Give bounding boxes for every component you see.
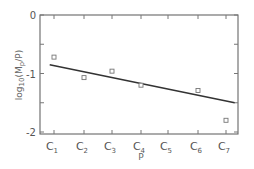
plot-frame — [40, 15, 238, 134]
x-tick-label: C5 — [160, 140, 172, 155]
x-tick-label: C6 — [190, 140, 203, 155]
x-tick-label: C3 — [104, 140, 116, 155]
x-tick-label: C1 — [46, 140, 58, 155]
axis-ticks — [40, 15, 238, 134]
data-point-marker — [224, 118, 228, 122]
chart: 0-1-2 C1C2C3C4C5C6C7 P log10(Mp/P) — [0, 0, 254, 169]
y-tick-label: -1 — [26, 69, 36, 80]
data-point-marker — [139, 83, 143, 87]
y-axis-title: log10(Mp/P) — [14, 50, 26, 100]
x-axis-title: P — [138, 152, 144, 162]
y-tick-labels: 0-1-2 — [26, 10, 36, 138]
x-tick-label: C7 — [218, 140, 230, 155]
plot-area-border — [40, 15, 238, 134]
data-point-marker — [110, 69, 114, 73]
x-tick-label: C2 — [76, 140, 88, 155]
data-point-marker — [52, 55, 56, 59]
data-point-marker — [196, 88, 200, 92]
data-points — [52, 55, 228, 122]
data-point-marker — [82, 76, 86, 80]
y-tick-label: -2 — [26, 127, 36, 138]
y-tick-label: 0 — [30, 10, 36, 21]
